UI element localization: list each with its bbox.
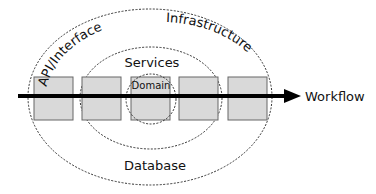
workflow-arrow-head: [284, 89, 301, 103]
infrastructure-label: Infrastructure: [166, 10, 256, 55]
workflow-box-4: [179, 77, 218, 120]
workflow-label: Workflow: [305, 89, 365, 104]
workflow-box-2: [82, 77, 121, 120]
database-label: Database: [124, 158, 186, 173]
services-label: Services: [125, 55, 180, 70]
workflow-box-5: [228, 77, 267, 120]
layered-architecture-diagram: API/Interface Infrastructure Services Do…: [0, 0, 376, 194]
domain-label: Domain: [132, 80, 171, 91]
